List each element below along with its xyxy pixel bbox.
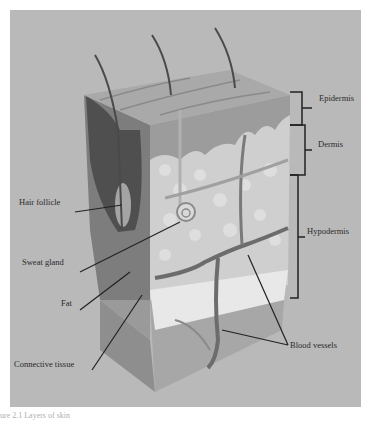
- label-dermis: Dermis: [318, 140, 343, 149]
- label-hair-follicle: Hair follicle: [19, 198, 60, 207]
- label-epidermis: Epidermis: [319, 94, 354, 103]
- label-blood-vessels: Blood vessels: [290, 341, 337, 350]
- label-connective-tissue: Connective tissue: [14, 360, 74, 369]
- label-hypodermis: Hypodermis: [307, 227, 349, 236]
- label-sweat-gland: Sweat gland: [22, 258, 64, 267]
- label-fat: Fat: [61, 299, 72, 308]
- figure-caption: ure 2.1 Layers of skin: [0, 412, 70, 420]
